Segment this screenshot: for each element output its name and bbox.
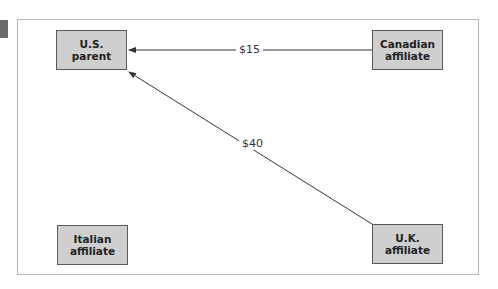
node-canadian-affiliate-line2: affiliate: [380, 50, 435, 62]
node-uk-affiliate-line2: affiliate: [385, 244, 430, 256]
node-us-parent-line1: U.S.: [72, 38, 111, 50]
node-uk-affiliate-line1: U.K.: [385, 232, 430, 244]
node-italian-affiliate: Italian affiliate: [57, 225, 128, 265]
node-canadian-affiliate: Canadian affiliate: [372, 30, 443, 70]
node-canadian-affiliate-line1: Canadian: [380, 38, 435, 50]
node-us-parent: U.S. parent: [56, 30, 127, 70]
node-us-parent-line2: parent: [72, 50, 111, 62]
node-italian-affiliate-line2: affiliate: [70, 245, 115, 257]
edge-label-uk-us: $40: [239, 138, 266, 150]
node-uk-affiliate: U.K. affiliate: [372, 224, 443, 264]
node-italian-affiliate-line1: Italian: [70, 233, 115, 245]
edge-label-canada-us: $15: [236, 44, 263, 56]
